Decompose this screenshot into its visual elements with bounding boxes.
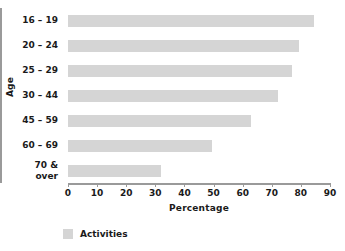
y-axis-line [0, 8, 2, 183]
bar [68, 40, 299, 52]
bar-row [68, 8, 330, 33]
bar [68, 15, 314, 27]
x-axis-tick [330, 183, 331, 187]
x-axis-tick-label: 70 [257, 188, 287, 198]
bar [68, 140, 212, 152]
x-axis-tick-label: 40 [169, 188, 199, 198]
bar-row [68, 83, 330, 108]
y-axis-tick-label: 20 – 24 [0, 40, 62, 51]
x-axis-tick [301, 183, 302, 187]
x-axis-tick [272, 183, 273, 187]
x-axis-line [68, 183, 330, 185]
bar-row [68, 133, 330, 158]
y-axis-tick-label: 70 & over [0, 160, 62, 181]
y-axis-tick-label: 16 – 19 [0, 15, 62, 26]
bar [68, 115, 251, 127]
x-axis-title: Percentage [68, 203, 330, 213]
x-axis-tick-label: 20 [111, 188, 141, 198]
x-axis-tick [243, 183, 244, 187]
bar [68, 90, 278, 102]
x-axis-tick [97, 183, 98, 187]
plot-area [68, 8, 330, 183]
x-axis-tick-label: 80 [286, 188, 316, 198]
x-axis-tick-label: 0 [53, 188, 83, 198]
legend-label: Activities [80, 229, 128, 239]
x-axis-tick-label: 90 [315, 188, 345, 198]
bar-chart: Age 16 – 19 20 – 24 25 – 29 30 – 44 45 –… [0, 0, 345, 251]
x-axis-tick-label: 30 [140, 188, 170, 198]
x-axis-tick [155, 183, 156, 187]
y-axis-tick-labels: 16 – 19 20 – 24 25 – 29 30 – 44 45 – 59 … [0, 8, 62, 183]
x-axis-tick-label: 50 [199, 188, 229, 198]
bar-row [68, 108, 330, 133]
x-axis-tick [68, 183, 69, 187]
x-axis-tick-label: 10 [82, 188, 112, 198]
y-axis-tick-label: 25 – 29 [0, 65, 62, 76]
bar-row [68, 158, 330, 183]
x-axis-tick [214, 183, 215, 187]
bar-row [68, 58, 330, 83]
x-axis-tick-label: 60 [228, 188, 258, 198]
legend: Activities [63, 229, 128, 239]
bar [68, 165, 161, 177]
bar-row [68, 33, 330, 58]
y-axis-tick-label: 60 – 69 [0, 140, 62, 151]
y-axis-tick-label: 30 – 44 [0, 90, 62, 101]
legend-swatch [63, 229, 73, 239]
x-axis-tick [184, 183, 185, 187]
bar [68, 65, 292, 77]
x-axis-tick [126, 183, 127, 187]
y-axis-tick-label: 45 – 59 [0, 115, 62, 126]
